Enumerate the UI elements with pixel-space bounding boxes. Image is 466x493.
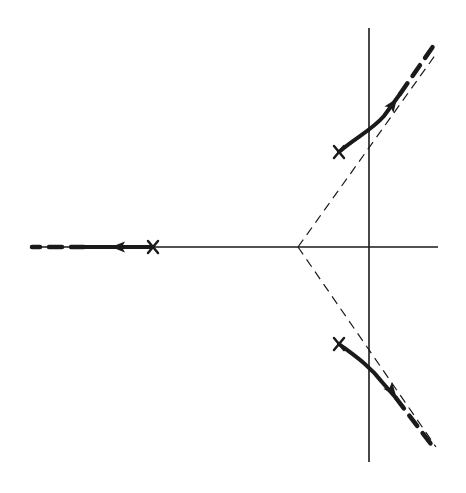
root-locus-diagram: [0, 0, 466, 493]
